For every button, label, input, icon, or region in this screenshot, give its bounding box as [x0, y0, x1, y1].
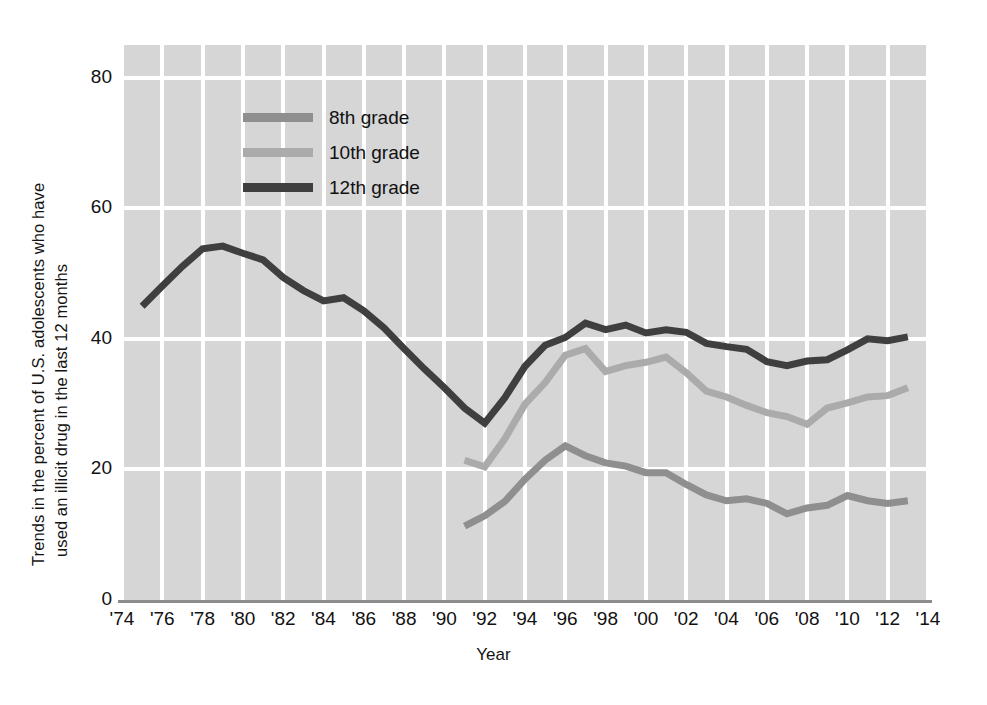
legend-swatch-10th-grade [243, 148, 313, 157]
y-tick-label: 0 [66, 588, 112, 610]
chart-figure: Trends in the percent of U.S. adolescent… [0, 0, 987, 705]
series-line-8th-grade [465, 446, 908, 526]
x-axis-line [118, 600, 932, 603]
y-axis-title-line-2: used an illicit drug in the last 12 mont… [52, 264, 71, 557]
legend-item-10th-grade: 10th grade [243, 135, 473, 170]
legend-label-10th-grade: 10th grade [329, 143, 420, 162]
chart-legend: 8th grade 10th grade 12th grade [243, 100, 473, 205]
y-tick-label: 80 [66, 66, 112, 88]
legend-swatch-12th-grade [243, 183, 313, 192]
y-tick-label: 40 [66, 327, 112, 349]
legend-label-12th-grade: 12th grade [329, 178, 420, 197]
y-tick-label: 60 [66, 196, 112, 218]
x-axis-title: Year [0, 645, 987, 665]
series-line-10th-grade [465, 349, 908, 467]
series-line-12th-grade [142, 246, 908, 423]
x-tick-label: '14 [900, 608, 956, 630]
legend-item-8th-grade: 8th grade [243, 100, 473, 135]
legend-swatch-8th-grade [243, 113, 313, 122]
legend-item-12th-grade: 12th grade [243, 170, 473, 205]
legend-label-8th-grade: 8th grade [329, 108, 409, 127]
y-axis-title-line-1: Trends in the percent of U.S. adolescent… [29, 183, 48, 566]
y-tick-label: 20 [66, 457, 112, 479]
